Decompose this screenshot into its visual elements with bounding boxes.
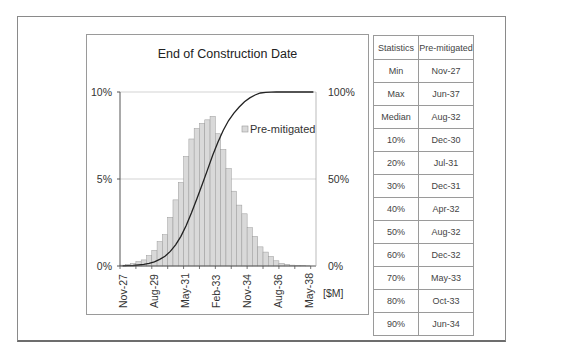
histogram-bar	[210, 116, 215, 266]
stat-value-cell: Aug-32	[419, 106, 474, 129]
stat-value-cell: May-33	[419, 267, 474, 290]
right-tick-0: 0%	[328, 260, 343, 272]
x-tick-label: Nov-27	[117, 274, 129, 308]
table-row: 90%Jun-34	[374, 313, 474, 336]
table-row: 70%May-33	[374, 267, 474, 290]
table-row: 30%Dec-31	[374, 175, 474, 198]
histogram-bar	[189, 139, 194, 266]
histogram-bar	[146, 256, 151, 266]
stat-name-cell: 10%	[374, 129, 419, 152]
histogram-bar	[178, 182, 183, 266]
stat-name-cell: Max	[374, 83, 419, 106]
table-row: MaxJun-37	[374, 83, 474, 106]
statistics-table: StatisticsPre-mitigatedMinNov-27MaxJun-3…	[373, 35, 474, 336]
left-y-axis-labels: 10% 5% 0%	[91, 86, 112, 272]
table-row: MedianAug-32	[374, 106, 474, 129]
histogram-bar	[252, 236, 257, 266]
stat-name-cell: 90%	[374, 313, 419, 336]
histogram-bars	[120, 116, 311, 266]
header-pre-mitigated: Pre-mitigated	[419, 36, 474, 60]
legend-label: Pre-mitigated	[250, 123, 315, 135]
histogram-bar	[168, 217, 173, 266]
x-tick-label: May-31	[179, 273, 191, 308]
stat-value-cell: Jun-37	[419, 83, 474, 106]
stat-value-cell: Apr-32	[419, 198, 474, 221]
right-tick-100: 100%	[328, 86, 355, 98]
left-tick-0: 0%	[97, 260, 112, 272]
table-row: 20%Jul-31	[374, 152, 474, 175]
x-tick-label: Feb-33	[210, 275, 222, 308]
left-tick-5: 5%	[97, 173, 112, 185]
stat-value-cell: Nov-27	[419, 60, 474, 83]
histogram-bar	[274, 261, 279, 266]
stat-name-cell: 60%	[374, 244, 419, 267]
stat-name-cell: Min	[374, 60, 419, 83]
table-row: 50%Aug-32	[374, 221, 474, 244]
histogram-bar	[157, 242, 162, 266]
histogram-bar	[173, 200, 178, 266]
histogram-bar	[221, 149, 226, 266]
stat-value-cell: Oct-33	[419, 290, 474, 313]
histogram-bar	[184, 156, 189, 266]
table-header-row: StatisticsPre-mitigated	[374, 36, 474, 60]
chart-plot: Pre-mitigated 10% 5% 0% 100% 50% 0% Nov-…	[0, 0, 561, 353]
x-axis-labels: Nov-27Aug-29May-31Feb-33Nov-34Aug-36May-…	[117, 273, 315, 308]
histogram-bar	[152, 250, 157, 266]
x-tick-label: Aug-36	[272, 274, 284, 308]
header-statistics: Statistics	[374, 36, 419, 60]
histogram-bar	[258, 247, 263, 266]
stat-name-cell: 20%	[374, 152, 419, 175]
right-tick-50: 50%	[328, 173, 349, 185]
histogram-bar	[268, 256, 273, 266]
histogram-bar	[263, 252, 268, 266]
histogram-bar	[242, 214, 247, 266]
stat-value-cell: Aug-32	[419, 221, 474, 244]
histogram-bar	[215, 134, 220, 266]
stat-value-cell: Dec-32	[419, 244, 474, 267]
stat-name-cell: 30%	[374, 175, 419, 198]
table-row: MinNov-27	[374, 60, 474, 83]
stat-value-cell: Jun-34	[419, 313, 474, 336]
table-row: 80%Oct-33	[374, 290, 474, 313]
left-tick-10: 10%	[91, 86, 112, 98]
histogram-bar	[205, 120, 210, 266]
histogram-bar	[237, 205, 242, 266]
histogram-bar	[226, 169, 231, 266]
stat-name-cell: 70%	[374, 267, 419, 290]
legend: Pre-mitigated	[242, 123, 315, 135]
right-y-axis-labels: 100% 50% 0%	[328, 86, 355, 272]
stat-name-cell: Median	[374, 106, 419, 129]
histogram-bar	[247, 228, 252, 266]
stat-value-cell: Dec-30	[419, 129, 474, 152]
histogram-bar	[199, 123, 204, 266]
legend-swatch	[242, 126, 248, 132]
x-tick-label: May-38	[303, 273, 315, 308]
stat-name-cell: 80%	[374, 290, 419, 313]
table-row: 10%Dec-30	[374, 129, 474, 152]
histogram-bar	[231, 191, 236, 266]
stat-name-cell: 40%	[374, 198, 419, 221]
table-row: 60%Dec-32	[374, 244, 474, 267]
stat-value-cell: Jul-31	[419, 152, 474, 175]
table-row: 40%Apr-32	[374, 198, 474, 221]
stat-value-cell: Dec-31	[419, 175, 474, 198]
x-tick-label: Aug-29	[148, 274, 160, 308]
x-tick-label: Nov-34	[241, 274, 253, 308]
histogram-bar	[162, 235, 167, 266]
x-unit-label: [$M]	[323, 287, 344, 299]
stat-name-cell: 50%	[374, 221, 419, 244]
